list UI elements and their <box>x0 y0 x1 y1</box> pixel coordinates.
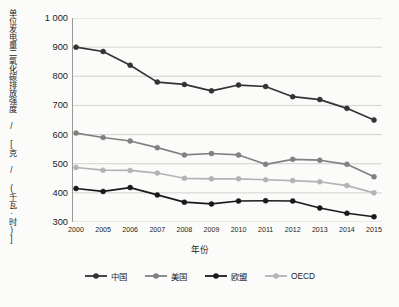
data-point <box>372 190 377 195</box>
data-point <box>209 176 214 181</box>
y-tick-label: 800 <box>24 71 68 81</box>
data-point <box>182 176 187 181</box>
data-point <box>155 192 160 197</box>
y-tick-label: 400 <box>24 188 68 198</box>
data-point <box>317 179 322 184</box>
data-point <box>290 178 295 183</box>
data-point <box>209 88 214 93</box>
data-point <box>317 158 322 163</box>
x-tick-label: 2007 <box>149 226 165 234</box>
data-point <box>372 174 377 179</box>
series-line-0 <box>76 47 374 120</box>
data-point <box>128 168 133 173</box>
x-tick-label: 2005 <box>95 226 111 234</box>
data-point <box>344 162 349 167</box>
x-axis-tick-labels: 2000200520062007200820092010201120122013… <box>72 224 382 238</box>
data-point <box>236 83 241 88</box>
data-point <box>290 199 295 204</box>
data-point <box>209 151 214 156</box>
data-point <box>317 97 322 102</box>
data-point <box>128 63 133 68</box>
data-point <box>155 171 160 176</box>
data-point <box>101 49 106 54</box>
legend-item-0[interactable]: 中国 <box>84 270 127 282</box>
data-point <box>263 177 268 182</box>
series-line-2 <box>76 188 374 217</box>
y-tick-label: 1 000 <box>24 13 68 23</box>
x-tick-label: 2014 <box>339 226 355 234</box>
series-lines <box>72 18 382 222</box>
data-point <box>236 152 241 157</box>
data-point <box>155 145 160 150</box>
x-tick-label: 2011 <box>258 226 273 234</box>
data-point <box>101 168 106 173</box>
x-tick-label: 2013 <box>312 226 328 234</box>
emissions-intensity-line-chart: 单位发电量二氧化碳排放强度 / [克 / (千瓦·时)] 30040050060… <box>0 0 399 307</box>
legend-label: 中国 <box>111 270 127 282</box>
legend-marker-icon <box>84 271 108 281</box>
data-point <box>344 106 349 111</box>
x-tick-label: 2008 <box>176 226 192 234</box>
data-point <box>182 152 187 157</box>
legend-marker-icon <box>144 271 168 281</box>
data-point <box>128 185 133 190</box>
x-tick-label: 2012 <box>285 226 301 234</box>
x-tick-label: 2006 <box>122 226 138 234</box>
chart-legend: 中国美国欧盟OECD <box>0 270 399 282</box>
x-axis-title: 年份 <box>0 243 399 255</box>
data-point <box>182 200 187 205</box>
legend-item-1[interactable]: 美国 <box>144 270 187 282</box>
legend-label: OECD <box>291 271 315 281</box>
y-axis-title: 单位发电量二氧化碳排放强度 / [克 / (千瓦·时)] <box>2 8 20 244</box>
x-tick-label: 2010 <box>231 226 247 234</box>
data-point <box>209 201 214 206</box>
y-axis-tick-labels: 3004005006007008009001 000 <box>20 18 68 222</box>
y-tick-label: 600 <box>24 130 68 140</box>
legend-label: 欧盟 <box>231 270 247 282</box>
data-point <box>236 176 241 181</box>
x-tick-label: 2015 <box>366 226 382 234</box>
data-point <box>74 186 79 191</box>
legend-item-2[interactable]: 欧盟 <box>204 270 247 282</box>
x-tick-label: 2009 <box>204 226 220 234</box>
data-point <box>290 94 295 99</box>
data-point <box>263 162 268 167</box>
data-point <box>372 214 377 219</box>
y-tick-label: 900 <box>24 42 68 52</box>
data-point <box>344 183 349 188</box>
data-point <box>372 118 377 123</box>
data-point <box>128 138 133 143</box>
y-tick-label: 300 <box>24 217 68 227</box>
data-point <box>74 45 79 50</box>
data-point <box>74 131 79 136</box>
data-point <box>155 80 160 85</box>
data-point <box>74 165 79 170</box>
data-point <box>263 198 268 203</box>
legend-marker-icon <box>264 271 288 281</box>
data-point <box>317 206 322 211</box>
data-point <box>101 189 106 194</box>
legend-label: 美国 <box>171 270 187 282</box>
y-tick-label: 700 <box>24 100 68 110</box>
x-tick-label: 2000 <box>68 226 84 234</box>
y-tick-label: 500 <box>24 159 68 169</box>
data-point <box>344 211 349 216</box>
data-point <box>236 199 241 204</box>
plot-area <box>72 18 382 222</box>
legend-item-3[interactable]: OECD <box>264 271 315 281</box>
data-point <box>182 82 187 87</box>
data-point <box>263 84 268 89</box>
data-point <box>101 135 106 140</box>
data-point <box>290 157 295 162</box>
legend-marker-icon <box>204 271 228 281</box>
